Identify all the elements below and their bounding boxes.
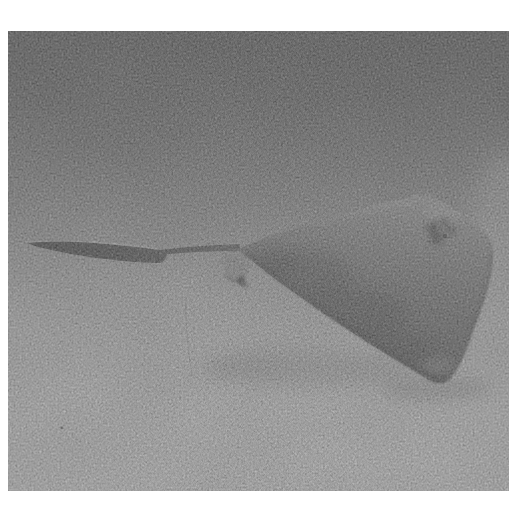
- scanned-page: [0, 0, 514, 519]
- stingray-photo-canvas: [8, 31, 509, 491]
- stingray-photo: [8, 31, 509, 491]
- film-grain-light: [8, 31, 509, 491]
